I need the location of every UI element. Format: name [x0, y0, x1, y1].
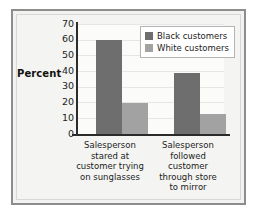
bar-black-customers-group-1: [96, 40, 122, 134]
chart-legend: Black customers White customers: [140, 26, 235, 58]
legend-item-white-customers: White customers: [145, 42, 229, 54]
y-axis-line: [76, 22, 78, 136]
y-axis-tick-labels: 70 60 50 40 30 20 10 0: [44, 0, 74, 220]
y-tick-label: 30: [48, 81, 74, 91]
category-label-line: on sunglasses: [72, 172, 148, 183]
legend-swatch-icon: [145, 32, 153, 40]
y-tick-label: 10: [48, 113, 74, 123]
category-label-line: Salesperson: [152, 140, 224, 151]
y-tick-label: 50: [48, 50, 74, 60]
y-tick-label: 20: [48, 97, 74, 107]
bar-black-customers-group-2: [174, 73, 200, 134]
bar-white-customers-group-1: [122, 103, 148, 134]
legend-label: White customers: [157, 43, 229, 53]
bar-white-customers-group-2: [200, 114, 226, 134]
x-axis-category-label-2: Salesperson followed customer through st…: [152, 140, 224, 193]
y-tick-label: 70: [48, 19, 74, 29]
y-axis-label: Percent: [17, 68, 61, 79]
category-label-line: customer: [152, 161, 224, 172]
legend-item-black-customers: Black customers: [145, 30, 229, 42]
category-label-line: followed: [152, 151, 224, 162]
y-tick-label: 60: [48, 34, 74, 44]
legend-swatch-icon: [145, 44, 153, 52]
category-label-line: through store: [152, 172, 224, 183]
x-axis-line: [72, 134, 230, 136]
category-label-line: stared at: [72, 151, 148, 162]
gridline: [78, 24, 224, 25]
category-label-line: Salesperson: [72, 140, 148, 151]
chart-figure: 70 60 50 40 30 20 10 0 Percent Black cus…: [0, 0, 257, 220]
x-axis-category-label-1: Salesperson stared at customer trying on…: [72, 140, 148, 182]
category-label-line: customer trying: [72, 161, 148, 172]
y-tick-label: 0: [48, 129, 74, 139]
category-label-line: to mirror: [152, 182, 224, 193]
legend-label: Black customers: [157, 31, 227, 41]
